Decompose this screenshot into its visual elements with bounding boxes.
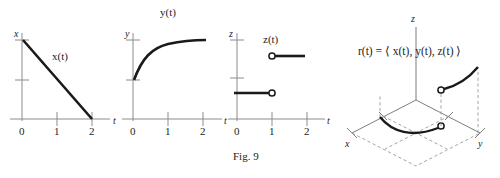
r-panel-z-axis-label: z [411, 13, 415, 24]
r-panel-y-axis-label: y [478, 138, 482, 149]
r-panel-x-axis-label: x [345, 138, 349, 149]
figure-container: x t x(t) 0 1 2 y(t) y t 0 1 2 z t z(t) 0… [0, 0, 500, 178]
figure-caption: Fig. 9 [233, 150, 259, 162]
r-panel-formula: r(t) = ⟨ x(t), y(t), z(t) ⟩ [358, 44, 461, 58]
